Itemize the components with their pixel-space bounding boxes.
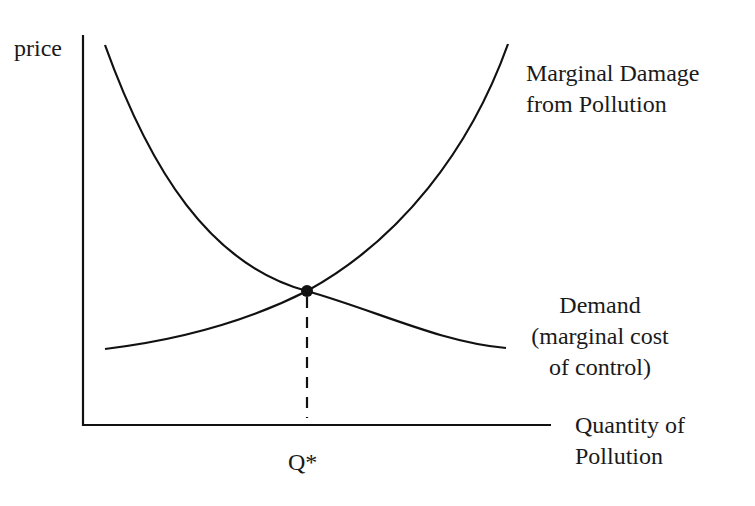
- q-star-label: Q*: [288, 447, 317, 478]
- x-axis-label: Quantity of Pollution: [575, 410, 685, 472]
- demand-label-line3: of control): [510, 352, 690, 383]
- y-axis-label: price: [14, 33, 62, 64]
- x-axis-label-line2: Pollution: [575, 441, 685, 472]
- equilibrium-point: [301, 285, 313, 297]
- demand-label-line2: (marginal cost: [510, 321, 690, 352]
- x-axis-label-line1: Quantity of: [575, 410, 685, 441]
- md-label-line2: from Pollution: [526, 89, 700, 120]
- demand-curve: [105, 45, 506, 348]
- md-label-line1: Marginal Damage: [526, 58, 700, 89]
- md-curve-label: Marginal Damage from Pollution: [526, 58, 700, 120]
- demand-curve-label: Demand (marginal cost of control): [510, 290, 690, 383]
- demand-label-line1: Demand: [510, 290, 690, 321]
